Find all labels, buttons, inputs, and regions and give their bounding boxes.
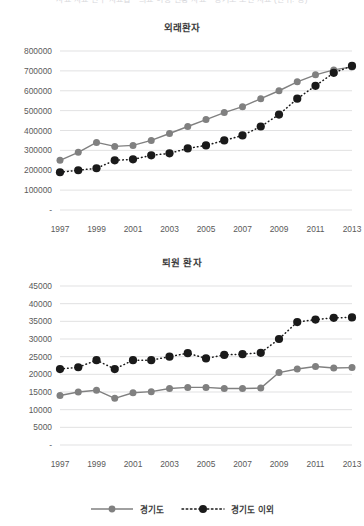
x-axis-tick-label: 2001 bbox=[124, 459, 143, 469]
data-point-gyeonggi bbox=[130, 142, 137, 149]
y-axis-tick-label: 10000 bbox=[29, 405, 53, 415]
data-point-gyeonggi bbox=[57, 392, 64, 399]
data-point-gyeonggi bbox=[57, 157, 64, 164]
legend-label-outside: 경기도 이외 bbox=[231, 503, 275, 515]
x-axis-tick-label: 2011 bbox=[306, 224, 324, 234]
data-point-gyeonggi bbox=[294, 78, 301, 85]
data-point-gyeonggi bbox=[166, 130, 173, 137]
data-point-gyeonggi bbox=[221, 385, 228, 392]
y-axis-tick-label: 5000 bbox=[33, 422, 52, 432]
x-axis-tick-label: 1997 bbox=[51, 459, 70, 469]
chart-title-outpatients: 외래환자 bbox=[0, 20, 364, 34]
y-axis-tick-label: 600000 bbox=[24, 86, 52, 96]
y-axis-tick-label: - bbox=[49, 440, 52, 450]
data-point-outside bbox=[92, 356, 100, 364]
data-point-gyeonggi bbox=[184, 384, 191, 391]
data-point-outside bbox=[92, 164, 100, 172]
y-axis-tick-label: 40000 bbox=[29, 299, 53, 309]
data-point-outside bbox=[202, 141, 210, 149]
y-axis-tick-label: 30000 bbox=[29, 334, 53, 344]
data-point-outside bbox=[238, 350, 246, 358]
data-point-outside bbox=[220, 351, 228, 359]
data-point-gyeonggi bbox=[166, 385, 173, 392]
y-axis-tick-label: 15000 bbox=[29, 387, 53, 397]
data-point-outside bbox=[111, 156, 119, 164]
data-point-gyeonggi bbox=[111, 143, 118, 150]
x-axis-tick-label: 1997 bbox=[51, 224, 70, 234]
data-point-outside bbox=[129, 155, 137, 163]
legend-label-gyeonggi: 경기도 bbox=[140, 503, 165, 515]
x-axis-tick-label: 2007 bbox=[233, 459, 252, 469]
y-axis-tick-label: 800000 bbox=[24, 46, 52, 56]
data-point-outside bbox=[293, 318, 301, 326]
y-axis-tick-label: 20000 bbox=[29, 369, 53, 379]
discharged-chart-svg: -500010000150002000025000300003500040000… bbox=[0, 255, 364, 485]
x-axis-tick-label: 2013 bbox=[343, 459, 362, 469]
discharged-chart-block: 퇴원 환자 -500010000150002000025000300003500… bbox=[0, 255, 364, 485]
y-axis-tick-label: 500000 bbox=[24, 106, 52, 116]
data-point-gyeonggi bbox=[239, 103, 246, 110]
data-point-gyeonggi bbox=[312, 363, 319, 370]
cut-off-header-text: 사료 자료 연구 자료집 · 의료 이용 현황 자료 · 경기도 보건 자료 (… bbox=[0, 0, 364, 4]
data-point-outside bbox=[257, 122, 265, 130]
data-point-outside bbox=[348, 313, 356, 321]
data-point-outside bbox=[330, 69, 338, 77]
data-point-outside bbox=[275, 335, 283, 343]
data-point-gyeonggi bbox=[257, 385, 264, 392]
outpatients-chart-svg: -100000200000300000400000500000600000700… bbox=[0, 20, 364, 250]
data-point-outside bbox=[330, 314, 338, 322]
legend-item-gyeonggi: 경기도 bbox=[90, 503, 165, 515]
data-point-outside bbox=[147, 151, 155, 159]
data-point-gyeonggi bbox=[75, 149, 82, 156]
x-axis-tick-label: 2013 bbox=[343, 224, 362, 234]
data-point-gyeonggi bbox=[349, 364, 356, 371]
data-point-outside bbox=[202, 354, 210, 362]
data-point-gyeonggi bbox=[276, 87, 283, 94]
data-point-outside bbox=[311, 315, 319, 323]
y-axis-tick-label: 300000 bbox=[24, 145, 52, 155]
data-point-gyeonggi bbox=[130, 389, 137, 396]
x-axis-tick-label: 2011 bbox=[306, 459, 324, 469]
data-point-outside bbox=[129, 356, 137, 364]
legend-item-outside: 경기도 이외 bbox=[181, 503, 275, 515]
data-point-outside bbox=[220, 136, 228, 144]
y-axis-tick-label: 200000 bbox=[24, 165, 52, 175]
data-point-gyeonggi bbox=[312, 71, 319, 78]
y-axis-tick-label: 35000 bbox=[29, 316, 53, 326]
data-point-outside bbox=[293, 95, 301, 103]
data-point-gyeonggi bbox=[203, 116, 210, 123]
chart-page: 사료 자료 연구 자료집 · 의료 이용 현황 자료 · 경기도 보건 자료 (… bbox=[0, 0, 364, 526]
x-axis-tick-label: 2005 bbox=[197, 224, 216, 234]
legend-row: 경기도 경기도 이외 bbox=[0, 495, 364, 523]
data-point-outside bbox=[184, 349, 192, 357]
data-point-outside bbox=[56, 168, 64, 176]
data-point-outside bbox=[147, 356, 155, 364]
y-axis-tick-label: 700000 bbox=[24, 66, 52, 76]
y-axis-tick-label: 100000 bbox=[24, 185, 52, 195]
data-point-outside bbox=[165, 353, 173, 361]
legend-marker-outside-icon bbox=[181, 503, 225, 515]
data-point-outside bbox=[74, 363, 82, 371]
data-point-gyeonggi bbox=[111, 395, 118, 402]
data-point-gyeonggi bbox=[93, 387, 100, 394]
outpatients-chart-block: 외래환자 -1000002000003000004000005000006000… bbox=[0, 20, 364, 250]
data-point-outside bbox=[56, 365, 64, 373]
x-axis-tick-label: 2001 bbox=[124, 224, 143, 234]
y-axis-tick-label: 400000 bbox=[24, 126, 52, 136]
x-axis-tick-label: 2007 bbox=[233, 224, 252, 234]
y-axis-tick-label: 45000 bbox=[29, 281, 53, 291]
x-axis-tick-label: 1999 bbox=[87, 224, 106, 234]
data-point-gyeonggi bbox=[276, 369, 283, 376]
data-point-outside bbox=[111, 365, 119, 373]
data-point-gyeonggi bbox=[203, 384, 210, 391]
data-point-gyeonggi bbox=[330, 364, 337, 371]
data-point-gyeonggi bbox=[75, 389, 82, 396]
x-axis-tick-label: 2005 bbox=[197, 459, 216, 469]
data-point-outside bbox=[184, 144, 192, 152]
series-line-gyeonggi bbox=[60, 367, 352, 399]
x-axis-tick-label: 1999 bbox=[87, 459, 106, 469]
y-axis-tick-label: - bbox=[49, 205, 52, 215]
data-point-gyeonggi bbox=[148, 137, 155, 144]
data-point-gyeonggi bbox=[184, 123, 191, 130]
data-point-gyeonggi bbox=[93, 139, 100, 146]
